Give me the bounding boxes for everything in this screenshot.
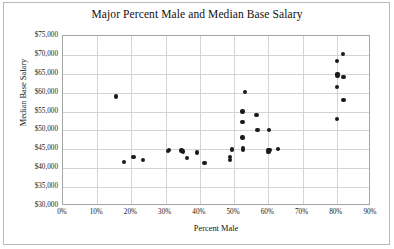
gridline-horizontal [63,168,369,169]
y-tick-label: $65,000 [6,69,58,77]
gridline-vertical [131,36,132,204]
data-point [267,128,271,132]
gridline-horizontal [63,149,369,150]
data-point [167,148,171,152]
data-point [254,113,258,117]
data-point [181,149,185,153]
gridline-vertical [200,36,201,204]
data-point [114,94,118,98]
gridline-horizontal [63,93,369,94]
data-point [276,147,280,151]
x-axis-label: Percent Male [62,224,370,233]
gridline-vertical [303,36,304,204]
data-point [240,109,244,113]
data-point [131,155,135,159]
data-point [255,128,259,132]
data-point [335,59,339,63]
data-point [185,156,189,160]
scatter-chart-figure: Major Percent Male and Median Base Salar… [0,0,394,249]
data-point [335,73,339,77]
data-point [141,158,145,162]
x-tick-label: 90% [350,208,390,216]
gridline-vertical [234,36,235,204]
gridline-horizontal [63,74,369,75]
plot-area [62,35,370,205]
data-point [195,150,199,154]
y-tick-label: $35,000 [6,182,58,190]
y-tick-label: $60,000 [6,88,58,96]
data-point [341,75,345,79]
y-tick-label: $45,000 [6,144,58,152]
data-point [241,148,245,152]
data-point [230,147,234,151]
data-point [228,158,232,162]
y-tick-label: $55,000 [6,107,58,115]
gridline-horizontal [63,112,369,113]
data-point [202,161,206,165]
gridline-vertical [268,36,269,204]
data-point [267,148,271,152]
data-point [243,90,247,94]
y-tick-label: $75,000 [6,31,58,39]
data-point [335,117,339,121]
y-tick-label: $40,000 [6,163,58,171]
y-tick-label: $50,000 [6,125,58,133]
gridline-horizontal [63,187,369,188]
chart-title: Major Percent Male and Median Base Salar… [0,8,394,20]
gridline-vertical [97,36,98,204]
data-point [240,135,244,139]
y-tick-label: $70,000 [6,50,58,58]
data-point [122,160,126,164]
data-point [335,85,339,89]
gridline-horizontal [63,130,369,131]
data-point [240,120,244,124]
gridline-horizontal [63,55,369,56]
data-point [341,98,345,102]
gridline-vertical [166,36,167,204]
